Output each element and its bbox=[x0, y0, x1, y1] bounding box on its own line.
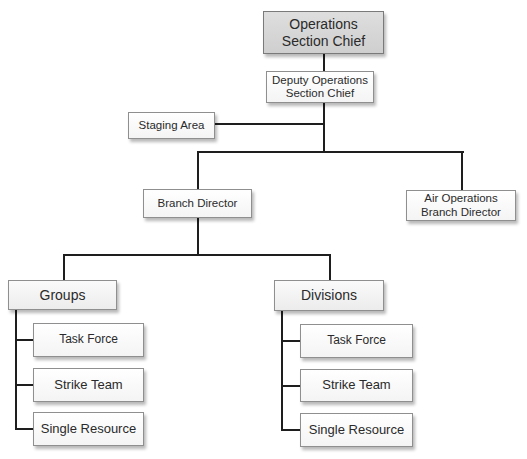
groups-box: Groups bbox=[8, 280, 117, 310]
divisions-strike-team-label: Strike Team bbox=[322, 378, 390, 393]
branch-director-label: Branch Director bbox=[158, 197, 238, 210]
groups-branch-2 bbox=[15, 384, 33, 386]
groups-single-resource-label: Single Resource bbox=[41, 422, 136, 437]
groups-strike-team-label: Strike Team bbox=[54, 378, 122, 393]
connector-deputy-trunk bbox=[323, 103, 325, 153]
divisions-branch-1 bbox=[281, 340, 300, 342]
deputy-label-line2: Section Chief bbox=[272, 87, 368, 100]
connector-horizontal-branches bbox=[197, 151, 464, 153]
divisions-single-resource-box: Single Resource bbox=[300, 413, 413, 447]
divisions-label: Divisions bbox=[301, 287, 357, 303]
groups-strike-team-box: Strike Team bbox=[33, 368, 144, 402]
groups-label: Groups bbox=[40, 287, 86, 303]
air-ops-label-line2: Branch Director bbox=[421, 206, 501, 219]
divisions-branch-3 bbox=[281, 429, 300, 431]
connector-horizontal-groups-divisions bbox=[63, 254, 331, 256]
air-ops-label-line1: Air Operations bbox=[421, 192, 501, 205]
divisions-spine bbox=[281, 311, 283, 431]
groups-task-force-box: Task Force bbox=[33, 323, 144, 357]
root-label-line1: Operations bbox=[282, 16, 365, 32]
connector-to-branch bbox=[197, 151, 199, 189]
staging-area-box: Staging Area bbox=[128, 112, 215, 139]
groups-branch-1 bbox=[15, 339, 33, 341]
staging-area-label: Staging Area bbox=[139, 119, 205, 132]
connector-to-divisions bbox=[329, 254, 331, 280]
divisions-single-resource-label: Single Resource bbox=[309, 423, 404, 438]
groups-spine bbox=[15, 310, 17, 430]
groups-single-resource-box: Single Resource bbox=[33, 412, 144, 446]
branch-director-box: Branch Director bbox=[143, 189, 252, 218]
groups-branch-3 bbox=[15, 428, 33, 430]
root-label-line2: Section Chief bbox=[282, 33, 365, 49]
divisions-task-force-label: Task Force bbox=[327, 334, 386, 348]
groups-task-force-label: Task Force bbox=[59, 333, 118, 347]
connector-branch-trunk bbox=[197, 218, 199, 256]
divisions-strike-team-box: Strike Team bbox=[300, 369, 413, 402]
deputy-operations-section-chief-box: Deputy Operations Section Chief bbox=[266, 71, 374, 103]
operations-section-chief-box: Operations Section Chief bbox=[263, 11, 384, 54]
connector-root-deputy bbox=[323, 54, 325, 71]
divisions-task-force-box: Task Force bbox=[300, 324, 413, 358]
divisions-branch-2 bbox=[281, 385, 300, 387]
connector-to-groups bbox=[63, 254, 65, 280]
connector-to-air-ops bbox=[461, 151, 463, 190]
air-operations-branch-director-box: Air Operations Branch Director bbox=[406, 190, 516, 221]
deputy-label-line1: Deputy Operations bbox=[272, 74, 368, 87]
connector-staging bbox=[215, 123, 324, 125]
divisions-box: Divisions bbox=[274, 280, 384, 311]
